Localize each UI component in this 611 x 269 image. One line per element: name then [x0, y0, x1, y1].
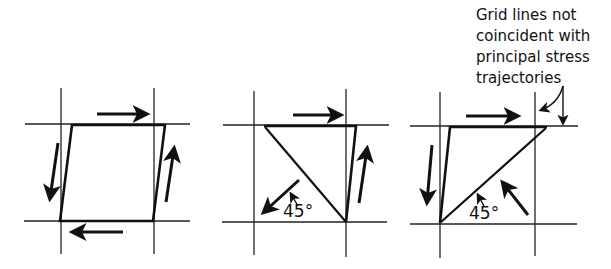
leader-line-to-vertical-grid [541, 86, 563, 110]
angle-label: 45° [469, 203, 499, 223]
annotation-line-4: trajectories [476, 69, 562, 87]
shear-diagram: 45° 45° Grid lines not coincident with p… [0, 0, 611, 269]
panel-3: 45° [410, 86, 578, 258]
annotation: Grid lines not coincident with principal… [476, 6, 590, 87]
shear-arrow-right-icon [166, 149, 174, 202]
angle-label: 45° [283, 201, 313, 221]
shear-arrow-right-icon [359, 149, 367, 203]
panel-1 [24, 88, 190, 254]
shear-arrow-left-icon [50, 143, 58, 198]
annotation-line-3: principal stress [476, 48, 590, 66]
annotation-line-2: coincident with [476, 27, 590, 45]
sheared-element [60, 125, 165, 221]
panel-2: 45° [222, 89, 389, 257]
diagonal-compression-arrow-icon [503, 183, 528, 215]
annotation-line-1: Grid lines not [476, 6, 577, 24]
shear-arrow-left-icon [427, 145, 432, 202]
